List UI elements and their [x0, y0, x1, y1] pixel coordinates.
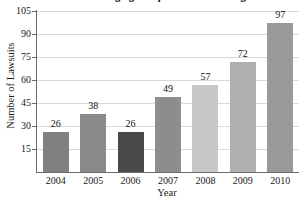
bar-value-label: 72: [223, 49, 263, 59]
y-axis-tick-label: 90: [1, 29, 31, 39]
bar-chart: Number of Lawsuits Charging Companies wi…: [0, 0, 304, 204]
x-axis-line: [36, 172, 299, 173]
y-axis-tick: [32, 149, 37, 150]
bar-value-label: 57: [185, 72, 225, 82]
bar-value-label: 26: [36, 119, 76, 129]
bar: [118, 132, 144, 172]
bar: [155, 97, 181, 172]
y-axis-tick: [32, 57, 37, 58]
gridline: [37, 34, 299, 35]
bar: [230, 62, 256, 172]
y-axis-tick-label: 75: [1, 52, 31, 62]
y-axis-tick: [32, 103, 37, 104]
y-axis-tick: [32, 80, 37, 81]
bar: [267, 23, 293, 172]
bar: [43, 132, 69, 172]
gridline: [37, 80, 299, 81]
y-axis-tick-label: 30: [1, 121, 31, 131]
y-axis-tick-label: 45: [1, 98, 31, 108]
y-axis-tick-labels: 153045607590105: [0, 0, 31, 204]
bar: [192, 85, 218, 172]
chart-title: Number of Lawsuits Charging Companies wi…: [0, 0, 304, 2]
bar-value-label: 38: [73, 101, 113, 111]
bar: [80, 114, 106, 172]
bar-value-label: 26: [111, 119, 151, 129]
y-axis-tick-label: 15: [1, 144, 31, 154]
y-axis-tick-label: 60: [1, 75, 31, 85]
y-axis-tick: [32, 11, 37, 12]
x-axis-tick-label: 2010: [258, 175, 302, 186]
y-axis-tick-label: 105: [1, 6, 31, 16]
y-axis-tick: [32, 34, 37, 35]
bar-value-label: 97: [260, 10, 300, 20]
bar-value-label: 49: [148, 84, 188, 94]
x-axis-title: Year: [37, 187, 297, 198]
